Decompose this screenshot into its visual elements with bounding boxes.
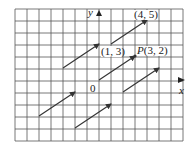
vector-arrow	[63, 44, 99, 68]
vector-arrow	[99, 56, 135, 80]
grid	[15, 9, 183, 141]
point-P-coords: (3, 2)	[144, 44, 168, 57]
vector-diagram: y x 0 (1, 3) (4, 5) P(3, 2)	[0, 0, 195, 151]
vector-arrow	[39, 92, 75, 116]
x-axis-label: x	[178, 84, 184, 96]
point-label-1-3: (1, 3)	[101, 45, 125, 58]
y-axis-label: y	[87, 6, 93, 18]
origin-label: 0	[90, 82, 96, 94]
vector-arrow	[111, 20, 147, 44]
y-axis-arrow-icon	[96, 10, 102, 16]
x-axis-arrow-icon	[178, 77, 185, 83]
vector-arrow	[75, 104, 111, 128]
point-label-4-5: (4, 5)	[134, 8, 158, 21]
point-label-P: P(3, 2)	[136, 44, 168, 57]
vector-arrow	[123, 68, 159, 92]
